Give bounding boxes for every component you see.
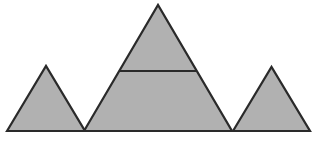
triangles-figure — [0, 0, 316, 141]
left-triangle — [7, 66, 85, 131]
figure-canvas — [0, 0, 316, 141]
middle-triangle — [84, 5, 232, 131]
right-triangle — [233, 67, 310, 131]
